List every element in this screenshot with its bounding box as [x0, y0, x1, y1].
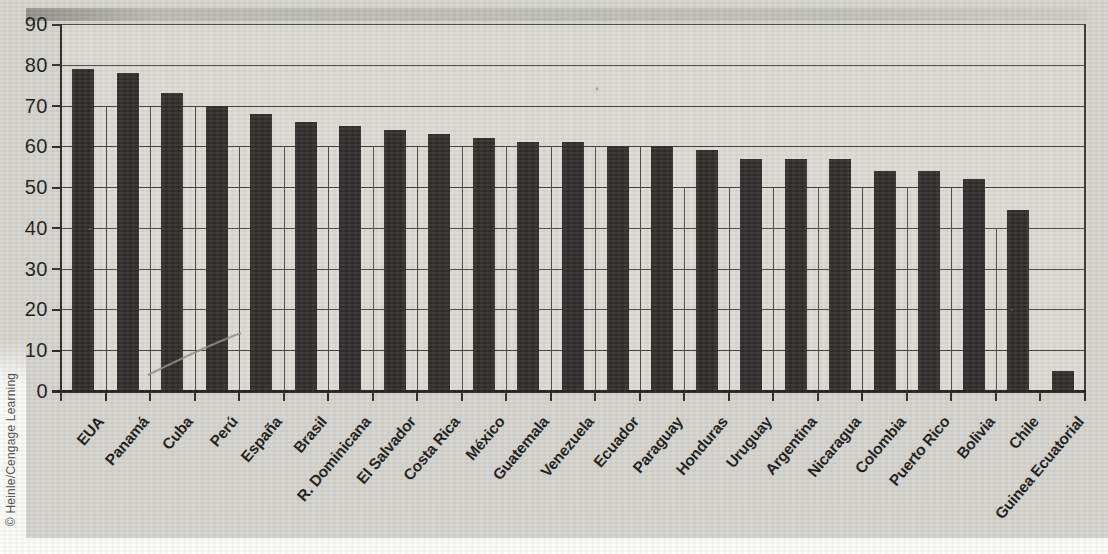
- x-axis-tick: [1084, 393, 1086, 401]
- x-axis-tick: [772, 393, 774, 401]
- bar: [384, 130, 406, 392]
- category-boundary-line: [684, 187, 685, 391]
- x-axis-tick: [149, 393, 151, 401]
- category-boundary-line: [907, 187, 908, 391]
- x-axis-tick: [683, 393, 685, 401]
- bar: [206, 106, 228, 392]
- bar: [696, 150, 718, 392]
- bar: [161, 93, 183, 392]
- x-axis-tick: [594, 393, 596, 401]
- x-axis-tick: [194, 393, 196, 401]
- x-axis-tick: [861, 393, 863, 401]
- bar: [1052, 371, 1074, 392]
- bar: [651, 146, 673, 392]
- x-axis-line: [52, 390, 1086, 393]
- page-bottom-margin: [0, 538, 1108, 554]
- category-boundary-line: [284, 146, 285, 391]
- bar: [918, 171, 940, 392]
- bar: [339, 126, 361, 392]
- x-axis-tick: [950, 393, 952, 401]
- category-boundary-line: [551, 146, 552, 391]
- y-axis-label: 30: [4, 257, 48, 281]
- category-boundary-line: [862, 187, 863, 391]
- y-gridline: [61, 24, 1085, 25]
- category-boundary-line: [506, 146, 507, 391]
- category-boundary-line: [239, 146, 240, 391]
- x-axis-tick: [60, 393, 62, 401]
- x-axis-tick: [505, 393, 507, 401]
- x-axis-tick: [906, 393, 908, 401]
- category-boundary-line: [328, 146, 329, 391]
- x-axis-tick: [550, 393, 552, 401]
- x-axis-tick: [639, 393, 641, 401]
- x-axis-tick: [416, 393, 418, 401]
- y-axis-label: 70: [4, 94, 48, 118]
- category-boundary-line: [773, 187, 774, 391]
- category-boundary-line: [951, 187, 952, 391]
- bar: [295, 122, 317, 392]
- category-boundary-line: [195, 106, 196, 391]
- x-axis-tick: [238, 393, 240, 401]
- category-boundary-line: [640, 146, 641, 391]
- category-boundary-line: [106, 106, 107, 391]
- y-axis-label: 40: [4, 216, 48, 240]
- plot-right-border: [1084, 24, 1086, 391]
- x-axis-tick: [461, 393, 463, 401]
- scanned-page: 9080706050403020100EUAPanamáCubaPerúEspa…: [0, 0, 1108, 554]
- bar: [250, 114, 272, 392]
- x-axis-tick: [1039, 393, 1041, 401]
- category-boundary-line: [150, 106, 151, 391]
- scan-artifact-top-band: [26, 8, 1088, 21]
- x-axis-tick: [372, 393, 374, 401]
- category-boundary-line: [996, 228, 997, 391]
- bar: [785, 159, 807, 392]
- x-axis-tick: [728, 393, 730, 401]
- y-axis-label: 80: [4, 53, 48, 77]
- y-axis-label: 90: [4, 12, 48, 36]
- bar: [562, 142, 584, 392]
- bar: [473, 138, 495, 392]
- category-boundary-line: [417, 146, 418, 391]
- category-boundary-line: [373, 146, 374, 391]
- y-axis-label: 50: [4, 175, 48, 199]
- copyright-credit: © Heinle/Cengage Learning: [4, 360, 17, 540]
- bar: [428, 134, 450, 392]
- category-boundary-line: [818, 187, 819, 391]
- bar: [1007, 210, 1029, 392]
- x-axis-tick: [283, 393, 285, 401]
- bar: [740, 159, 762, 392]
- bar: [829, 159, 851, 392]
- x-axis-tick: [105, 393, 107, 401]
- category-boundary-line: [729, 187, 730, 391]
- x-axis-tick: [995, 393, 997, 401]
- y-axis-label: 20: [4, 297, 48, 321]
- bar: [874, 171, 896, 392]
- y-axis-line: [60, 24, 62, 400]
- y-axis-label: 60: [4, 134, 48, 158]
- y-gridline: [61, 65, 1085, 66]
- category-boundary-line: [462, 146, 463, 391]
- category-boundary-line: [595, 146, 596, 391]
- bar: [72, 69, 94, 392]
- bar: [517, 142, 539, 392]
- bar: [117, 73, 139, 392]
- x-axis-tick: [817, 393, 819, 401]
- bar: [963, 179, 985, 392]
- x-axis-tick: [327, 393, 329, 401]
- bar: [607, 146, 629, 392]
